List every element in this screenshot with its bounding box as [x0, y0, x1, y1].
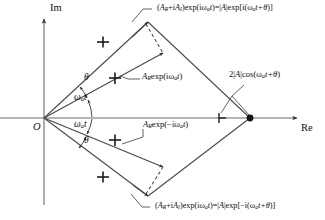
- lower-outer-edge: [44, 118, 148, 196]
- axis-group: [0, 19, 297, 205]
- lower-vec-exp: exp(−i: [152, 119, 175, 129]
- lower-vec-close: ): [185, 119, 188, 129]
- cross-marker-lower-outer: [97, 172, 109, 183]
- lower-outer-arrow: [133, 185, 148, 196]
- omega-arc-upper: [88, 100, 92, 117]
- theta-label-lower: θ: [84, 136, 89, 146]
- upper-vector-label: ARexp(iωat): [142, 72, 182, 82]
- omega-symbol-upper: ω: [74, 92, 81, 102]
- bot-eq-minus-i: −i: [240, 201, 247, 210]
- top-eq-exp-open: )exp(i: [182, 3, 202, 12]
- top-equation-label: (AR+iAI)exp(iωat)=|A|exp[i(ωat+θ)]: [157, 4, 273, 13]
- omega-symbol-lower: ω: [74, 119, 81, 129]
- resultant-label: 2|A|cos(ωat+θ): [229, 70, 280, 80]
- resultant-group: [219, 85, 253, 123]
- axis-tick-marker: [219, 113, 226, 123]
- imaginary-axis-label: Im: [50, 3, 62, 14]
- lower-vector-label: ARexp(−iωat): [143, 120, 188, 130]
- omega-t-lower: t: [84, 119, 87, 129]
- diagram-canvas: [0, 0, 325, 220]
- top-eq-mid2: |exp[i(: [226, 3, 247, 12]
- upper-phasor-group: [44, 22, 250, 118]
- origin-label: O: [33, 122, 41, 133]
- top-eq-mid: )=|: [212, 3, 221, 12]
- upper-vec-close: ): [179, 71, 182, 81]
- resultant-leader-branch: [232, 96, 249, 115]
- label-leaders: [120, 9, 152, 207]
- top-eq-close: )]: [267, 3, 272, 12]
- omega-t-upper: t: [84, 92, 87, 102]
- omega-t-label-lower: ωat: [74, 120, 87, 130]
- res-bar: |cos(: [240, 69, 256, 79]
- bottom-equation-label: (AR+iAI)exp(iωat)=|A|exp[−i(ωat+θ)]: [155, 202, 275, 211]
- cross-marker-upper-inner: [109, 73, 121, 85]
- upper-vector-leader: [120, 76, 140, 79]
- lower-dashed-closure: [146, 167, 163, 194]
- bot-eq-exp-open: )exp(i: [180, 201, 200, 210]
- phasor-diagram-figure: Im Re O θ ωat ωat θ (AR+iAI)exp(iωat)=|A…: [0, 0, 325, 220]
- top-eq-plus-theta: +θ: [258, 3, 268, 12]
- upper-vec-exp: exp(i: [151, 71, 169, 81]
- res-plus-theta: +θ: [267, 69, 277, 79]
- lower-vector-leader: [122, 129, 143, 144]
- top-equation-leader: [132, 9, 152, 22]
- theta-label-upper: θ: [84, 73, 89, 83]
- omega-arc-lower: [87, 119, 92, 134]
- sum-point-dot: [247, 115, 254, 122]
- res-close: ): [277, 69, 280, 79]
- bot-eq-mid: )=|: [210, 201, 219, 210]
- cross-marker-lower-inner: [109, 135, 121, 147]
- bot-eq-close: )]: [270, 201, 275, 210]
- upper-outer-arrow: [132, 22, 148, 37]
- omega-t-label-upper: ωat: [74, 93, 87, 103]
- real-axis-label: Re: [301, 123, 313, 134]
- upper-cross-markers: [97, 37, 121, 85]
- cross-marker-upper-outer: [97, 37, 109, 48]
- bot-eq-plus-theta: +θ: [260, 201, 270, 210]
